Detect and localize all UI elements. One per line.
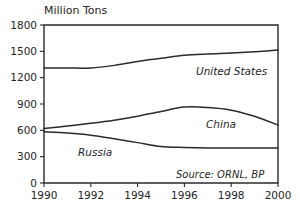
plot-axes bbox=[44, 25, 278, 183]
x-tick-label: 1990 bbox=[31, 189, 58, 201]
y-tick-label: 1800 bbox=[10, 19, 37, 31]
series-label-united-states: United States bbox=[196, 65, 268, 77]
x-tick-label: 1994 bbox=[124, 189, 151, 201]
source-note: Source: ORNL, BP bbox=[176, 169, 265, 180]
chart-container: 0300600900120015001800 19901992199419961… bbox=[0, 0, 300, 216]
y-tick-label: 0 bbox=[30, 177, 37, 189]
chart-title: Million Tons bbox=[44, 4, 107, 17]
x-axis-tick-labels: 199019921994199619982000 bbox=[31, 189, 292, 201]
y-axis-tick-labels: 0300600900120015001800 bbox=[10, 19, 37, 189]
y-tick-label: 600 bbox=[17, 124, 37, 136]
x-tick-label: 2000 bbox=[265, 189, 292, 201]
y-tick-label: 1200 bbox=[10, 71, 37, 83]
line-chart: 0300600900120015001800 19901992199419961… bbox=[0, 0, 300, 216]
series-label-russia: Russia bbox=[78, 146, 112, 158]
series-label-china: China bbox=[206, 118, 236, 130]
x-tick-label: 1996 bbox=[171, 189, 198, 201]
series-line-china bbox=[44, 107, 278, 129]
y-tick-label: 1500 bbox=[10, 45, 37, 57]
y-tick-label: 900 bbox=[17, 98, 37, 110]
y-tick-label: 300 bbox=[17, 150, 37, 162]
x-tick-label: 1992 bbox=[77, 189, 104, 201]
x-tick-label: 1998 bbox=[218, 189, 245, 201]
